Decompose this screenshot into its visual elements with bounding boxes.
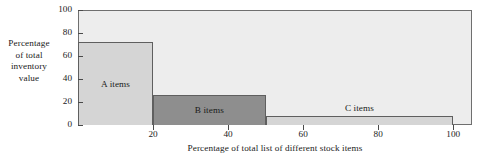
y-tick-label-60: 60 <box>46 51 72 60</box>
y-tick-0 <box>78 125 83 126</box>
y-tick-label-wrap-0: 0 <box>44 120 72 130</box>
y-tick-60 <box>78 56 83 57</box>
x-tick-label-20: 20 <box>138 129 168 139</box>
y-tick-80 <box>78 33 83 34</box>
y-tick-label-40: 40 <box>46 74 72 83</box>
y-axis-title-line-1: Percentage <box>0 38 58 50</box>
y-tick-label-wrap-80: 80 <box>44 28 72 38</box>
y-tick-label-80: 80 <box>46 28 72 37</box>
y-tick-100 <box>78 10 83 11</box>
y-tick-40 <box>78 79 83 80</box>
x-tick-label-100: 100 <box>438 129 468 139</box>
y-tick-label-wrap-20: 20 <box>44 97 72 107</box>
y-tick-label-100: 100 <box>46 5 72 14</box>
x-tick-label-80: 80 <box>363 129 393 139</box>
y-tick-label-0: 0 <box>46 120 72 129</box>
x-tick-label-60: 60 <box>288 129 318 139</box>
abc-inventory-analysis-chart: Percentage of total inventory value A it… <box>0 0 477 162</box>
plot-area <box>78 10 472 125</box>
y-tick-label-wrap-40: 40 <box>44 74 72 84</box>
y-tick-20 <box>78 102 83 103</box>
y-axis-title-line-3: inventory <box>0 61 58 73</box>
x-axis-title: Percentage of total list of different st… <box>78 143 472 154</box>
x-tick-label-40: 40 <box>213 129 243 139</box>
y-tick-label-20: 20 <box>46 97 72 106</box>
y-tick-label-wrap-100: 100 <box>44 5 72 15</box>
y-tick-label-wrap-60: 60 <box>44 51 72 61</box>
